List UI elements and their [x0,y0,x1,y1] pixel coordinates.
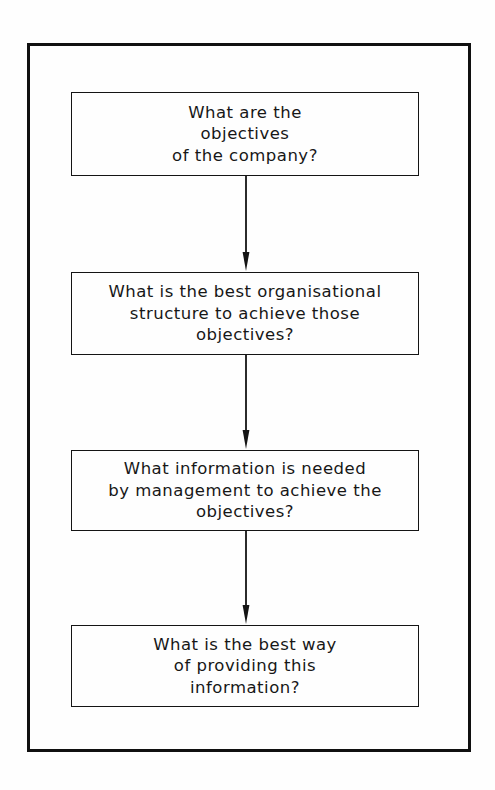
flow-node-structure: What is the best organisational structur… [71,272,419,355]
diagram-page: What are the objectives of the company? … [0,0,495,790]
flow-node-delivery-label: What is the best way of providing this i… [153,634,337,699]
flow-node-structure-label: What is the best organisational structur… [108,281,381,346]
flow-node-information-label: What information is needed by management… [108,458,382,523]
arrow-connector-3 [238,531,254,625]
arrow-connector-2 [238,355,254,450]
flow-node-objectives-label: What are the objectives of the company? [172,102,318,167]
flow-node-delivery: What is the best way of providing this i… [71,625,419,707]
flow-node-information: What information is needed by management… [71,450,419,531]
arrow-connector-1 [238,176,254,272]
flow-node-objectives: What are the objectives of the company? [71,92,419,176]
